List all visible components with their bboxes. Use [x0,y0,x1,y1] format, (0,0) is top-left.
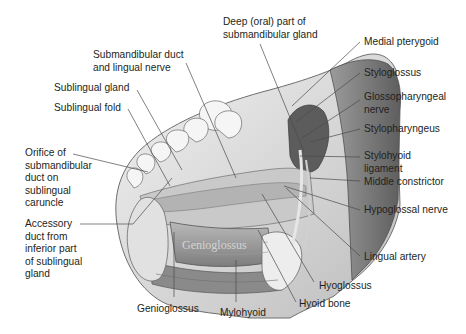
label-stylohyoid-ligament: Stylohyoid ligament [364,150,411,175]
label-mylohyoid: Mylohyoid [220,307,266,320]
anatomy-figure: Genioglossus Deep (oral) part of submand… [0,0,466,334]
label-hyoglossus: Hyoglossus [319,280,372,293]
label-genioglossus: Genioglossus [137,303,199,316]
label-accessory-duct: Accessory duct from inferior part of sub… [25,218,82,281]
label-lingual-artery: Lingual artery [364,251,426,264]
label-medial-pterygoid: Medial pterygoid [364,36,439,49]
label-hypoglossal-nerve: Hypoglossal nerve [364,204,448,217]
label-stylopharyngeus: Stylopharyngeus [364,123,440,136]
label-glossopharyngeal-nerve: Glossopharyngeal nerve [364,91,446,116]
label-styloglossus: Styloglossus [364,67,421,80]
label-sublingual-gland: Sublingual gland [54,82,129,95]
label-deep-part-submandibular-gland: Deep (oral) part of submandibular gland [223,16,318,41]
label-orifice-submandibular-duct: Orifice of submandibular duct on subling… [25,147,92,210]
genioglossus-watermark: Genioglossus [182,238,247,252]
label-submandibular-duct-lingual-nerve: Submandibular duct and lingual nerve [93,49,184,74]
label-hyoid-bone: Hyoid bone [299,298,351,311]
label-middle-constrictor: Middle constrictor [364,176,444,189]
label-sublingual-fold: Sublingual fold [54,102,121,115]
